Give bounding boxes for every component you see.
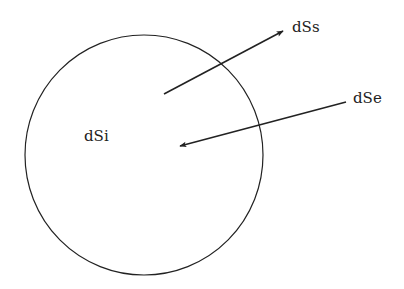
diagram-canvas: dSi dSs dSe [0, 0, 404, 289]
incoming-arrow [180, 102, 346, 146]
system-boundary-circle [25, 35, 263, 275]
outgoing-arrow [164, 31, 283, 94]
label-dss: dSs [292, 20, 320, 35]
label-dsi: dSi [84, 129, 109, 144]
label-dse: dSe [353, 91, 382, 106]
diagram-graphics [0, 0, 404, 289]
